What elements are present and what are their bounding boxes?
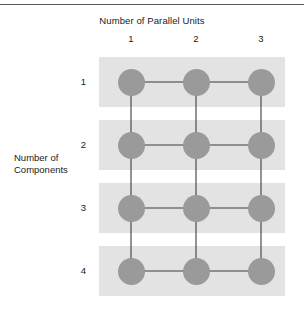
- grid-node[interactable]: [248, 258, 275, 285]
- grid-node[interactable]: [248, 132, 275, 159]
- row-header-label: 4: [66, 265, 86, 276]
- grid-node[interactable]: [183, 69, 210, 96]
- grid-node[interactable]: [118, 258, 145, 285]
- design-grid-figure: Number of Parallel Units 123 Number of C…: [0, 0, 304, 310]
- grid-node[interactable]: [118, 69, 145, 96]
- grid-node[interactable]: [183, 132, 210, 159]
- row-header-label: 1: [66, 76, 86, 87]
- grid-node[interactable]: [118, 132, 145, 159]
- grid-node[interactable]: [248, 195, 275, 222]
- grid-node[interactable]: [183, 195, 210, 222]
- grid-node[interactable]: [248, 69, 275, 96]
- plot-area: [0, 0, 304, 310]
- grid-node[interactable]: [183, 258, 210, 285]
- grid-node[interactable]: [118, 195, 145, 222]
- row-header-label: 2: [66, 139, 86, 150]
- row-header-label: 3: [66, 202, 86, 213]
